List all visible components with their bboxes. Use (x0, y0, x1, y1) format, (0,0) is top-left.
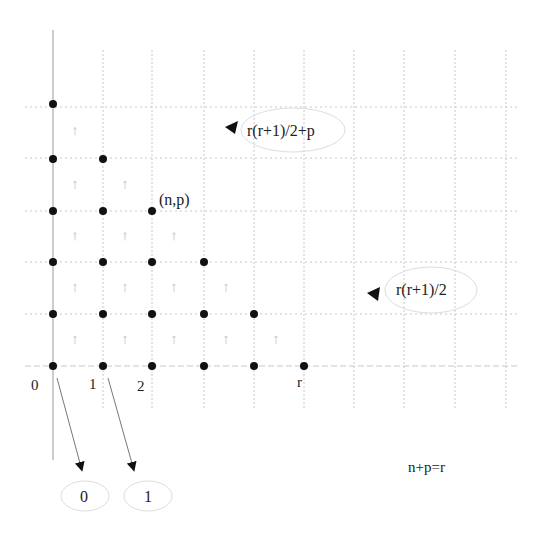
tiny-up-arrow-icon (74, 284, 77, 292)
axis-label-two: 2 (137, 378, 145, 394)
lattice-point (49, 258, 57, 266)
lattice-point (49, 362, 57, 370)
diagram-svg: 0 1 2 r (n,p) r(r+1)/2+p r(r+1)/2 0 1 n+… (0, 0, 548, 534)
constraint-label: n+p=r (408, 459, 445, 475)
arrow-to-node-0 (57, 378, 81, 467)
top-formula-label: r(r+1)/2+p (247, 122, 315, 140)
tiny-up-arrow-icon (173, 233, 176, 241)
dotted-grid (25, 50, 520, 410)
lattice-point (49, 310, 57, 318)
lattice-point (99, 310, 107, 318)
arrow-to-node-1 (108, 378, 133, 467)
point-label-np: (n,p) (159, 191, 190, 209)
tiny-up-arrow-icon (124, 233, 127, 241)
lattice-point (148, 362, 156, 370)
lattice-point (250, 362, 258, 370)
lattice-point (49, 155, 57, 163)
lattice-point (200, 310, 208, 318)
lattice-point (99, 155, 107, 163)
tiny-up-arrow-icon (74, 233, 77, 241)
lattice-point (200, 258, 208, 266)
lattice-point (250, 310, 258, 318)
diagram-canvas: 0 1 2 r (n,p) r(r+1)/2+p r(r+1)/2 0 1 n+… (0, 0, 548, 534)
lattice-point (49, 100, 57, 108)
output-node-0-label: 0 (80, 488, 88, 505)
lattice-point (148, 207, 156, 215)
tiny-up-arrow-icon (225, 284, 228, 292)
axis-label-one: 1 (89, 376, 97, 392)
output-node-1-label: 1 (144, 488, 152, 505)
axis-label-r: r (297, 374, 302, 390)
tiny-up-arrow-icon (173, 284, 176, 292)
tiny-up-arrow-icon (74, 336, 77, 344)
middle-formula-pointer-icon (367, 287, 380, 301)
tiny-up-arrow-icon (225, 336, 228, 344)
tiny-up-arrow-icon (74, 128, 77, 136)
tiny-up-arrow-icon (124, 284, 127, 292)
lattice-point (148, 310, 156, 318)
tiny-up-arrow-icon (173, 336, 176, 344)
lattice-point (99, 207, 107, 215)
lattice-point (200, 362, 208, 370)
tiny-up-arrow-icon (74, 181, 77, 189)
middle-formula-label: r(r+1)/2 (396, 281, 447, 299)
lattice-point (300, 362, 308, 370)
lattice-point (49, 207, 57, 215)
lattice-point (99, 258, 107, 266)
tiny-up-arrow-icon (124, 181, 127, 189)
axis-label-zero: 0 (31, 377, 39, 393)
tiny-up-arrow-icon (275, 336, 278, 344)
lattice-point (148, 258, 156, 266)
lattice-points (49, 100, 308, 370)
top-formula-pointer-icon (225, 121, 238, 134)
tiny-up-arrow-icon (124, 336, 127, 344)
lattice-point (99, 362, 107, 370)
